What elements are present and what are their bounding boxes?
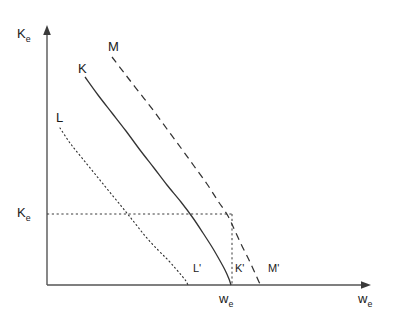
y-axis-arrowhead (43, 25, 51, 35)
plot-area (0, 0, 393, 328)
x-tick-label-main: w (219, 291, 228, 306)
y-axis-label-sub: e (26, 34, 31, 44)
intercept-label-L-prime: L' (193, 263, 201, 274)
x-axis-label: we (358, 292, 372, 308)
x-tick-label-sub: e (228, 299, 233, 309)
y-axis-label-main: K (17, 26, 26, 41)
curve-K-path (85, 77, 231, 285)
y-tick-label-main: K (17, 205, 26, 220)
curve-label-K: K (78, 62, 87, 75)
curve-L-path (60, 128, 188, 285)
y-tick-label-sub: e (26, 213, 31, 223)
intercept-label-K-prime: K' (235, 263, 244, 274)
guide-lines-group (47, 214, 232, 285)
y-axis-label: Ke (17, 27, 31, 43)
curve-M-path (112, 57, 261, 285)
figure-canvas: Ke we M K L L' K' M' Ke we (0, 0, 393, 328)
y-tick-label-Ke: Ke (17, 206, 31, 222)
x-axis-arrowhead (361, 281, 371, 289)
x-tick-label-we: we (219, 292, 233, 308)
curves-group (60, 57, 261, 285)
axes-group (43, 25, 371, 289)
curve-label-L: L (56, 111, 63, 124)
x-axis-label-sub: e (367, 299, 372, 309)
curve-label-M: M (108, 40, 119, 53)
intercept-label-M-prime: M' (268, 263, 279, 274)
x-axis-label-main: w (358, 291, 367, 306)
